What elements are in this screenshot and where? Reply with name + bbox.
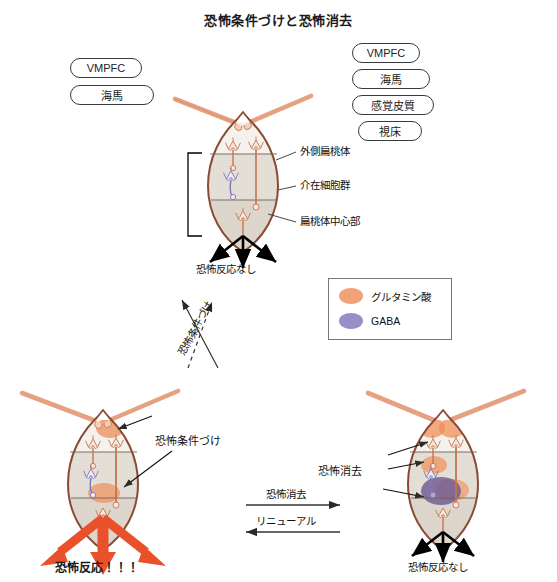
region-label-intercalated-cells: 介在細胞群 [300, 180, 350, 191]
legend: グルタミン酸 GABA [328, 278, 452, 340]
annotation-fear-conditioning: 恐怖条件づけ [155, 436, 221, 447]
legend-label-glutamate: グルタミン酸 [371, 289, 431, 304]
panel-top-naive [175, 96, 311, 268]
annotation-fear-extinction: 恐怖消去 [318, 466, 362, 477]
legend-label-gaba: GABA [371, 315, 400, 327]
output-arrows-br [412, 532, 474, 562]
gaba-swatch-icon [339, 313, 363, 329]
gaba-blob-br [421, 477, 461, 505]
panel-bottom-right-extinguished [368, 391, 524, 562]
region-label-central-nucleus: 扁桃体中心部 [300, 216, 360, 227]
transition-label-renewal: リニューアル [256, 516, 316, 527]
leader-itc [278, 186, 296, 190]
caption-bottom-left-fear-response: 恐怖反応！！！ [55, 562, 139, 574]
caption-bottom-right-no-fear-response: 恐怖反応なし [408, 562, 468, 573]
diagram-canvas: 恐怖条件づけと恐怖消去 VMPFC 海馬 VMPFC 海馬 感覚皮質 視床 [0, 0, 557, 582]
transition-label-extinction: 恐怖消去 [266, 489, 306, 500]
caption-top-no-fear-response: 恐怖反応なし [196, 264, 256, 275]
legend-item-glutamate: グルタミン酸 [339, 288, 431, 304]
glutamate-swatch-icon [339, 288, 363, 304]
region-label-lateral-amygdala: 外側扁桃体 [300, 146, 350, 157]
amygdala-bands-br [400, 408, 490, 558]
leader-la [276, 152, 296, 160]
legend-item-gaba: GABA [339, 313, 400, 329]
amygdala-bracket [188, 153, 202, 236]
panel-bottom-left-conditioned [22, 391, 178, 575]
leader-conditioning-upper [118, 416, 152, 429]
